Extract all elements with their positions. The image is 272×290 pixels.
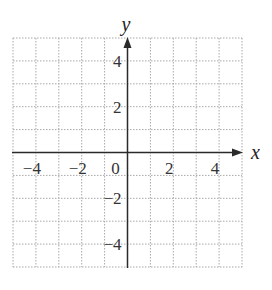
y-axis-arrow-icon xyxy=(124,37,132,48)
y-tick-label: −2 xyxy=(103,189,121,208)
x-axis-label: x xyxy=(250,141,260,163)
x-tick-label: 0 xyxy=(111,159,120,178)
axes xyxy=(12,37,243,268)
x-tick-label: −2 xyxy=(69,159,87,178)
x-tick-label: 4 xyxy=(211,159,220,178)
x-tick-label: −4 xyxy=(23,159,42,178)
x-tick-labels: −4−2024 xyxy=(23,159,220,178)
y-tick-label: 2 xyxy=(113,98,122,117)
x-axis-arrow-icon xyxy=(232,149,243,157)
y-tick-label: −4 xyxy=(103,235,122,254)
coordinate-plane: −4−2024 42−2−4 x y xyxy=(0,0,272,290)
x-tick-label: 2 xyxy=(165,159,174,178)
y-axis-label: y xyxy=(120,13,131,36)
y-tick-label: 4 xyxy=(113,52,122,71)
